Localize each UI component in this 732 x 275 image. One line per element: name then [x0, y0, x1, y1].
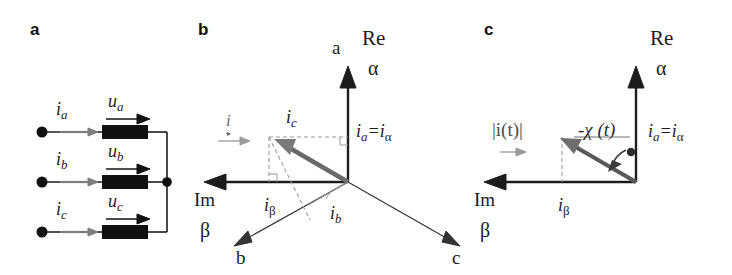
axis-label-beta-c: β [480, 220, 490, 240]
panel-b: b [190, 0, 470, 275]
space-vector-b [274, 139, 348, 182]
space-vector-c [560, 138, 636, 182]
figure-root: a [0, 0, 732, 275]
vector-ib [308, 182, 348, 205]
impedance-block-a [102, 125, 148, 139]
axis-label-alpha: α [368, 58, 378, 78]
label-current-c: ic [56, 200, 67, 222]
label-voltage-b: ub [108, 142, 123, 164]
label-voltage-a: ua [108, 92, 123, 114]
terminal-dot-b [37, 177, 48, 188]
panel-a: a [0, 0, 190, 275]
axis-label-beta: β [200, 220, 210, 240]
axis-label-re: Re [362, 28, 385, 49]
label-ic: ic [286, 108, 297, 130]
axis-label-b: b [236, 248, 246, 267]
label-ibeta: iβ [264, 196, 276, 218]
terminal-dot-a [37, 127, 48, 138]
label-ia-eq-ialpha-b: ia=iα [356, 122, 391, 144]
panel-a-circuit [0, 0, 190, 275]
label-current-a: ia [56, 100, 68, 122]
impedance-block-b [102, 175, 148, 189]
label-ib: ib [330, 204, 342, 226]
label-resultant-vector-b: i [226, 112, 231, 129]
axis-label-c: c [452, 248, 460, 267]
axis-label-im: Im [194, 190, 215, 209]
axis-label-im-c: Im [474, 190, 495, 209]
label-magnitude: |i(t)| [492, 120, 523, 139]
label-voltage-c: uc [108, 192, 123, 214]
axis-label-a: a [332, 38, 340, 57]
angle-origin-dot [627, 148, 635, 156]
impedance-block-c [102, 225, 148, 239]
panel-c: c [470, 0, 732, 275]
terminal-dot-c [37, 227, 48, 238]
axis-label-re-c: Re [650, 28, 673, 49]
neutral-node-dot [162, 177, 172, 187]
label-ia-eq-ialpha-c: ia=iα [648, 122, 683, 144]
axis-c [348, 182, 448, 239]
panel-b-axes [190, 0, 470, 275]
axis-label-alpha-c: α [656, 58, 666, 78]
label-ibeta-c: iβ [558, 196, 570, 218]
label-current-b: ib [56, 150, 68, 172]
label-angle-chi: -χ (t) [578, 120, 615, 139]
